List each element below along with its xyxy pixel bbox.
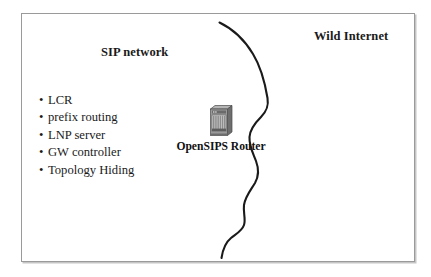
list-item-label: GW controller [48,145,121,159]
bullet-icon: • [39,109,43,126]
list-item-label: LCR [48,93,73,107]
list-item: • Topology Hiding [39,162,134,179]
list-item-label: Topology Hiding [48,163,134,177]
router-label: OpenSIPS Router [169,140,273,153]
diagram-frame: SIP network Wild Internet • LCR • prefix… [21,13,415,262]
list-item: • LNP server [39,127,134,144]
opensips-router-node: OpenSIPS Router [169,104,273,153]
sip-network-title: SIP network [101,45,168,60]
list-item: • GW controller [39,144,134,161]
bullet-icon: • [39,162,43,179]
list-item: • LCR [39,92,134,109]
list-item: • prefix routing [39,109,134,126]
sip-network-feature-list: • LCR • prefix routing • LNP server • GW… [39,92,134,179]
list-item-label: LNP server [48,128,105,142]
diagram-slide: SIP network Wild Internet • LCR • prefix… [0,0,431,277]
bullet-icon: • [39,144,43,161]
bullet-icon: • [39,92,43,109]
list-item-label: prefix routing [48,110,118,124]
bullet-icon: • [39,127,43,144]
router-chassis-icon [208,104,234,138]
wild-internet-title: Wild Internet [314,29,388,44]
